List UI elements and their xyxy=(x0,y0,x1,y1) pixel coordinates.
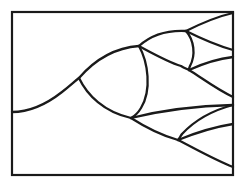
branching-diagram-svg xyxy=(0,0,248,186)
figure-root xyxy=(0,0,248,186)
